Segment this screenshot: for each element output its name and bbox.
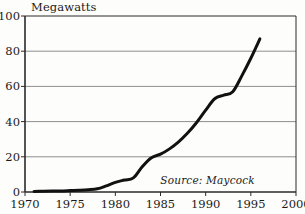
x-tick-label: 1995 (236, 197, 265, 211)
data-line (34, 39, 260, 192)
x-tick-label: 1985 (146, 197, 175, 211)
y-tick-label: 20 (5, 150, 20, 164)
plot-canvas (0, 0, 305, 214)
x-tick-label: 1975 (56, 197, 85, 211)
data-series-group (34, 39, 260, 192)
y-tick-label: 100 (0, 9, 20, 23)
x-tick-label: 1990 (191, 197, 220, 211)
y-tick-label: 80 (5, 44, 20, 58)
x-tick-label: 2000 (281, 197, 305, 211)
axis-ticks (21, 16, 296, 196)
chart-figure: Megawatts 020406080100 19701975198019851… (0, 0, 305, 214)
x-tick-label: 1980 (101, 197, 130, 211)
source-annotation: Source: Maycock (160, 174, 255, 186)
gridlines (25, 51, 296, 157)
y-tick-label: 40 (5, 115, 20, 129)
x-tick-label: 1970 (10, 197, 39, 211)
y-tick-label: 60 (5, 79, 20, 93)
plot-frame (25, 16, 296, 192)
